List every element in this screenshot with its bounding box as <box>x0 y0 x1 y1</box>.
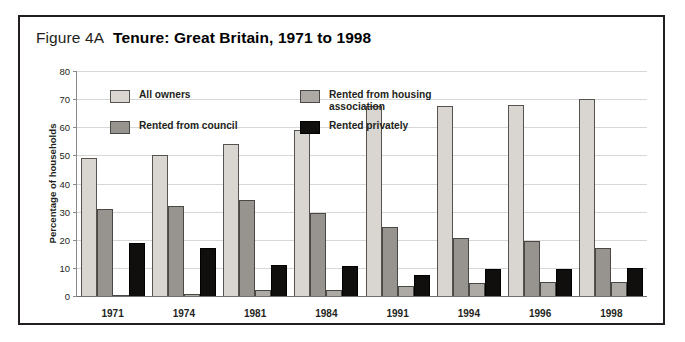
y-tick-label-20: 20 <box>59 234 70 245</box>
bar-1996-series-1 <box>524 241 540 296</box>
legend-swatch-icon-0 <box>110 90 130 103</box>
bar-1994-series-0 <box>437 106 453 296</box>
y-axis-label: Percentage of households <box>46 71 60 296</box>
page-title: Tenure: Great Britain, 1971 to 1998 <box>113 29 371 47</box>
bar-1984-series-0 <box>294 130 310 296</box>
bar-1991-series-2 <box>398 286 414 296</box>
bar-1991-series-0 <box>366 106 382 296</box>
bar-1998-series-1 <box>595 248 611 296</box>
bar-group-1996: 1996 <box>505 71 576 296</box>
legend-label-3: Rented privately <box>329 120 408 132</box>
y-tick-label-40: 40 <box>59 178 70 189</box>
bar-1998-series-2 <box>611 282 627 296</box>
x-tick-label-1998: 1998 <box>600 308 622 319</box>
bar-1984-series-2 <box>326 290 342 296</box>
y-tick-mark-0 <box>73 296 77 297</box>
bar-1971-series-3 <box>129 243 145 296</box>
bar-1998-series-3 <box>627 268 643 296</box>
bar-1984-series-1 <box>310 213 326 296</box>
figure-number: Figure 4A <box>36 29 104 47</box>
bar-1974-series-2 <box>184 294 200 296</box>
bar-1991-series-3 <box>414 275 430 296</box>
legend-item-3: Rented privately <box>300 120 470 134</box>
figure-title-row: Figure 4A Tenure: Great Britain, 1971 to… <box>36 29 371 47</box>
x-tick-label-1994: 1994 <box>458 308 480 319</box>
legend-item-2: Rented from council <box>110 120 280 134</box>
bar-1974-series-3 <box>200 248 216 296</box>
x-tick-label-1991: 1991 <box>387 308 409 319</box>
x-tick-label-1984: 1984 <box>315 308 337 319</box>
bar-1981-series-2 <box>255 290 271 296</box>
legend-item-1: Rented from housing association <box>300 89 470 112</box>
y-tick-label-10: 10 <box>59 262 70 273</box>
bar-1971-series-1 <box>97 209 113 296</box>
legend-label-1: Rented from housing association <box>329 89 431 112</box>
bar-1998-series-0 <box>579 99 595 296</box>
x-tick-label-1974: 1974 <box>173 308 195 319</box>
bar-1974-series-1 <box>168 206 184 296</box>
bar-1996-series-3 <box>556 269 572 296</box>
bar-1974-series-0 <box>152 155 168 296</box>
y-axis-label-text: Percentage of households <box>48 124 59 244</box>
gridline-0 <box>77 296 647 297</box>
figure-frame: Figure 4A Tenure: Great Britain, 1971 to… <box>18 15 665 325</box>
y-tick-label-30: 30 <box>59 206 70 217</box>
bar-1981-series-0 <box>223 144 239 296</box>
bar-1994-series-3 <box>485 269 501 296</box>
bar-1971-series-0 <box>81 158 97 296</box>
y-tick-label-50: 50 <box>59 150 70 161</box>
bar-1971-series-2 <box>113 295 129 297</box>
chart-legend: All ownersRented from housing associatio… <box>110 89 470 134</box>
bar-group-1998: 1998 <box>576 71 647 296</box>
y-tick-label-70: 70 <box>59 94 70 105</box>
legend-swatch-icon-2 <box>110 121 130 134</box>
legend-label-0: All owners <box>139 89 191 101</box>
bar-1981-series-1 <box>239 200 255 296</box>
y-tick-label-60: 60 <box>59 122 70 133</box>
bar-1994-series-1 <box>453 238 469 296</box>
legend-swatch-icon-1 <box>300 90 320 103</box>
bar-1996-series-0 <box>508 105 524 296</box>
legend-item-0: All owners <box>110 89 280 112</box>
bar-1996-series-2 <box>540 282 556 296</box>
x-tick-label-1981: 1981 <box>244 308 266 319</box>
x-tick-label-1996: 1996 <box>529 308 551 319</box>
bar-1981-series-3 <box>271 265 287 296</box>
y-tick-label-80: 80 <box>59 66 70 77</box>
bar-1991-series-1 <box>382 227 398 296</box>
legend-swatch-icon-3 <box>300 121 320 134</box>
x-tick-label-1971: 1971 <box>102 308 124 319</box>
legend-label-2: Rented from council <box>139 120 238 132</box>
bar-1984-series-3 <box>342 266 358 296</box>
bar-1994-series-2 <box>469 283 485 296</box>
y-tick-label-0: 0 <box>65 291 70 302</box>
